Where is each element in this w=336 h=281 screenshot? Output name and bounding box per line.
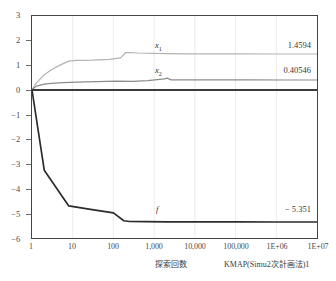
y-tick-label: −1 xyxy=(0,111,20,120)
series-key-f: f xyxy=(156,205,158,214)
convergence-chart: 3210−1−2−3−4−5−6 1101001,00010,000100,00… xyxy=(0,0,336,281)
x-tick-label: 100 xyxy=(107,243,119,251)
x-tick-label: 10 xyxy=(68,243,76,251)
y-tick-label: −6 xyxy=(0,235,20,244)
series-key-subscript: 1 xyxy=(159,46,162,52)
y-tick-label: 0 xyxy=(0,86,20,95)
series-key-subscript: 2 xyxy=(159,71,162,77)
series-final-value-x2: 0.40546 xyxy=(243,66,311,75)
x-tick-label: 100,000 xyxy=(223,243,248,251)
y-tick-label: 2 xyxy=(0,36,20,45)
x-axis-label: 探索回数 xyxy=(155,258,187,269)
series-line-x2 xyxy=(32,78,317,89)
x-tick-label: 1E+07 xyxy=(308,243,329,251)
x-tick-label: 10,000 xyxy=(184,243,205,251)
y-tick-label: 1 xyxy=(0,61,20,70)
y-tick-label: −3 xyxy=(0,160,20,169)
series-final-value-x1: 1.4594 xyxy=(243,41,311,50)
x-tick-label: 1,000 xyxy=(145,243,163,251)
series-final-value-f: − 5.351 xyxy=(243,205,311,214)
y-tick-label: −4 xyxy=(0,185,20,194)
y-tick-label: −5 xyxy=(0,210,20,219)
x-tick-label: 1E+06 xyxy=(267,243,288,251)
x-tick-label: 1 xyxy=(29,243,33,251)
series-line-f xyxy=(32,90,317,222)
chart-caption-title: KMAP(Simu2次計画法)1 xyxy=(224,258,309,269)
y-tick-label: −2 xyxy=(0,135,20,144)
series-key-x2: x2 xyxy=(155,66,162,77)
y-tick-label: 3 xyxy=(0,11,20,20)
series-key-x1: x1 xyxy=(155,41,162,52)
